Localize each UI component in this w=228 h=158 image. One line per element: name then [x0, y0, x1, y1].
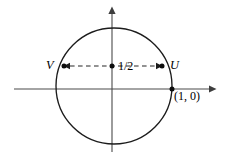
- label-v: V: [46, 59, 54, 72]
- unit-circle-figure: V 1/2 U (1, 0): [0, 0, 228, 158]
- label-point-one-zero: (1, 0): [174, 90, 200, 102]
- label-one-half: 1/2: [118, 60, 133, 72]
- y-axis-arrowhead-icon: [108, 7, 115, 14]
- figure-canvas: [0, 0, 228, 158]
- label-u: U: [170, 59, 179, 72]
- point-marker-v: [62, 64, 67, 69]
- point-marker-half: [110, 64, 115, 69]
- unit-circle-curve: [56, 28, 172, 144]
- point-marker-u: [160, 64, 165, 69]
- x-axis-arrowhead-icon: [209, 85, 217, 92]
